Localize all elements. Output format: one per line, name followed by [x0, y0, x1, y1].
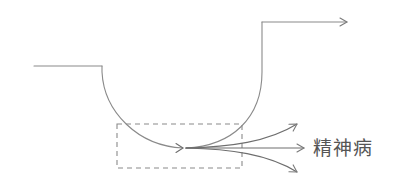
descent-curve — [102, 66, 183, 148]
divergent-arrows — [186, 124, 304, 172]
outcome-label: 精神病 — [313, 136, 373, 160]
ascent-curve — [186, 22, 262, 148]
